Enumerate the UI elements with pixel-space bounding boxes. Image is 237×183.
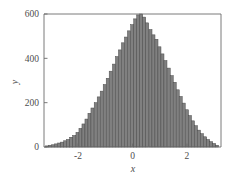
x-axis-title: x bbox=[130, 163, 136, 174]
y-tick-label: 400 bbox=[25, 54, 40, 64]
histogram-bar bbox=[200, 134, 203, 147]
histogram-bar bbox=[121, 43, 124, 147]
x-tick-label: -2 bbox=[74, 151, 82, 161]
y-tick-label: 600 bbox=[25, 9, 40, 19]
histogram-bar bbox=[146, 23, 149, 147]
histogram-bar bbox=[194, 126, 197, 147]
y-tick-label: 0 bbox=[34, 142, 39, 152]
histogram-bar bbox=[143, 17, 146, 147]
histogram-bar bbox=[140, 14, 143, 147]
histogram-bar bbox=[131, 25, 134, 147]
histogram-bar bbox=[61, 142, 64, 147]
histogram-bar bbox=[197, 130, 200, 147]
histogram-bar bbox=[88, 113, 91, 147]
histogram-bar bbox=[149, 30, 152, 147]
histogram-bar bbox=[73, 135, 76, 147]
histogram-bar bbox=[103, 84, 106, 147]
histogram-bar bbox=[188, 116, 191, 147]
histogram-bar bbox=[155, 39, 158, 147]
histogram-bar bbox=[134, 19, 137, 147]
y-tick-label: 200 bbox=[25, 98, 40, 108]
histogram-bar bbox=[210, 142, 213, 147]
histogram-bar bbox=[179, 96, 182, 147]
histogram-bar bbox=[97, 97, 100, 147]
histogram-bar bbox=[79, 128, 82, 147]
histogram-bar bbox=[91, 108, 94, 147]
histogram-bar bbox=[152, 35, 155, 147]
x-tick-label: 0 bbox=[130, 151, 135, 161]
histogram-chart: 0200400600 -202 y x bbox=[0, 0, 237, 183]
histogram-bar bbox=[82, 124, 85, 147]
histogram-bar bbox=[127, 31, 130, 147]
histogram-bar bbox=[207, 139, 210, 147]
histogram-bar bbox=[67, 139, 70, 147]
figure-canvas: 0200400600 -202 y x bbox=[0, 0, 237, 183]
histogram-bar bbox=[100, 91, 103, 147]
histogram-bar bbox=[161, 54, 164, 147]
histogram-bar bbox=[164, 61, 167, 147]
histogram-bar bbox=[182, 103, 185, 147]
histogram-bar bbox=[191, 121, 194, 147]
histogram-bar bbox=[118, 50, 121, 147]
histogram-bar bbox=[64, 141, 67, 147]
histogram-bar bbox=[176, 90, 179, 147]
y-axis-title: y bbox=[9, 79, 20, 85]
histogram-bar bbox=[170, 76, 173, 147]
histogram-bar bbox=[137, 15, 140, 147]
histogram-bar bbox=[173, 82, 176, 147]
histogram-bar bbox=[54, 144, 57, 147]
histogram-bar bbox=[115, 57, 118, 147]
histogram-bar bbox=[158, 47, 161, 147]
histogram-bar bbox=[167, 68, 170, 147]
histogram-bar bbox=[85, 119, 88, 147]
histogram-bar bbox=[109, 71, 112, 147]
histogram-bar bbox=[94, 103, 97, 147]
x-tick-label: 2 bbox=[185, 151, 190, 161]
histogram-bar bbox=[213, 143, 216, 147]
histogram-bar bbox=[58, 143, 61, 147]
histogram-bar bbox=[106, 78, 109, 147]
histogram-bar bbox=[185, 110, 188, 147]
histogram-bar bbox=[76, 132, 79, 147]
histogram-bars bbox=[45, 14, 218, 147]
histogram-bar bbox=[124, 37, 127, 147]
histogram-bar bbox=[70, 137, 73, 147]
histogram-bar bbox=[204, 137, 207, 147]
histogram-bar bbox=[112, 64, 115, 147]
